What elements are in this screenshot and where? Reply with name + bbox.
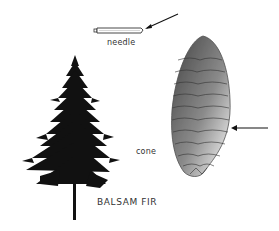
cone-label: cone <box>136 147 156 156</box>
diagram-title: BALSAM FIR <box>97 197 157 207</box>
needle-label: needle <box>107 38 135 47</box>
tree-silhouette <box>22 55 120 220</box>
balsam-fir-diagram: needle cone BALSAM FIR <box>0 0 279 231</box>
cone-arrow-icon <box>231 125 268 131</box>
needle-illustration <box>94 28 143 33</box>
needle-arrow-icon <box>145 14 178 29</box>
cone-illustration <box>172 36 231 177</box>
